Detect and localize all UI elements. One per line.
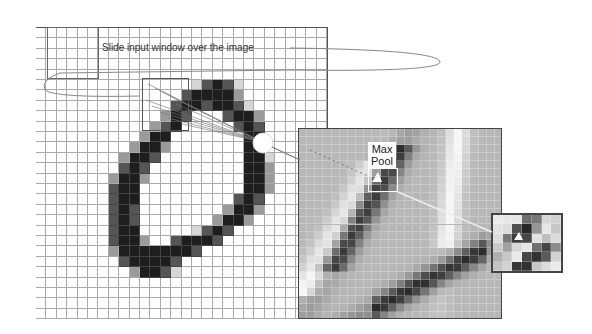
cnn-diagram: Slide input window over the image Max Po… — [0, 0, 592, 334]
neuron-to-fmap-line — [272, 147, 300, 160]
neuron-circle — [253, 133, 273, 153]
convolution-fan-lines — [146, 84, 262, 142]
pool-arrow-icon — [514, 232, 523, 240]
pool-connector-line — [398, 192, 492, 232]
dotted-guide-line — [310, 150, 368, 176]
maxpool-arrow-icon — [372, 172, 382, 182]
connector-overlay — [0, 0, 592, 334]
slide-path-arrow — [44, 48, 440, 96]
